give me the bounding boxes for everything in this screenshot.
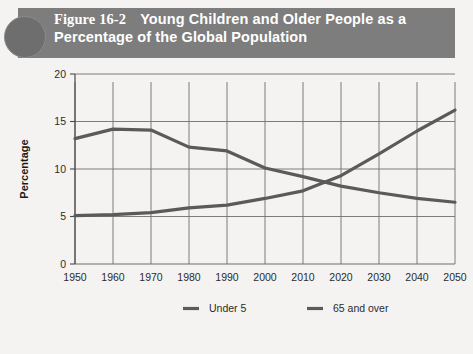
legend-label: 65 and over (333, 302, 389, 314)
chart-legend: Under 565 and over (183, 302, 389, 314)
chart-area: 05101520 1950196019701980199020002010202… (0, 60, 473, 354)
legend-label: Under 5 (209, 302, 247, 314)
y-axis-title: Percentage (18, 139, 30, 198)
x-tick-label: 1970 (139, 271, 163, 283)
y-tick-label: 10 (54, 163, 66, 175)
y-tick-label: 0 (60, 258, 66, 270)
figure-container: Figure 16-2Young Children and Older Peop… (0, 0, 473, 354)
x-axis-tick-labels: 1950196019701980199020002010202020302040… (63, 271, 467, 283)
x-tick-label: 2000 (253, 271, 277, 283)
figure-title-line-2: Percentage of the Global Population (54, 29, 307, 45)
figure-number: Figure 16-2 (54, 11, 140, 27)
line-chart: 05101520 1950196019701980199020002010202… (0, 60, 473, 354)
header-decorative-circle (4, 16, 46, 58)
x-tick-label: 1980 (177, 271, 201, 283)
x-tick-label: 2010 (291, 271, 315, 283)
axis-ticks (70, 74, 75, 264)
y-axis-title-text: Percentage (18, 139, 30, 198)
figure-title: Figure 16-2Young Children and Older Peop… (54, 10, 450, 46)
x-tick-label: 1960 (101, 271, 125, 283)
x-tick-label: 1950 (63, 271, 87, 283)
figure-title-line-1: Young Children and Older People as a (140, 11, 406, 27)
y-tick-label: 20 (54, 68, 66, 80)
x-tick-label: 2030 (367, 271, 391, 283)
y-axis-tick-labels: 05101520 (54, 68, 66, 270)
y-tick-label: 15 (54, 115, 66, 127)
x-tick-label: 1990 (215, 271, 239, 283)
x-tick-label: 2050 (443, 271, 467, 283)
x-tick-label: 2020 (329, 271, 353, 283)
y-tick-label: 5 (60, 210, 66, 222)
x-tick-label: 2040 (405, 271, 429, 283)
